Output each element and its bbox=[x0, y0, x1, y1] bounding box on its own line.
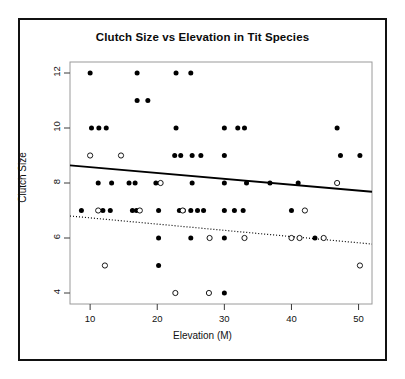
data-point-filled bbox=[242, 126, 247, 131]
data-point-filled bbox=[108, 208, 113, 213]
dotted-regression-line bbox=[70, 216, 372, 244]
data-point-open bbox=[289, 235, 294, 240]
data-point-filled bbox=[222, 153, 227, 158]
trendline-layer bbox=[70, 165, 372, 244]
y-tick-label: 4 bbox=[51, 282, 62, 302]
data-point-open bbox=[173, 290, 178, 295]
data-point-filled bbox=[222, 181, 227, 186]
data-point-filled bbox=[222, 291, 227, 296]
data-point-filled bbox=[195, 208, 200, 213]
x-tick-label: 50 bbox=[347, 313, 371, 324]
data-point-filled bbox=[357, 153, 362, 158]
data-point-filled bbox=[96, 126, 101, 131]
data-point-open bbox=[137, 208, 142, 213]
data-point-filled bbox=[222, 208, 227, 213]
data-point-open bbox=[180, 208, 185, 213]
data-point-filled bbox=[89, 126, 94, 131]
data-point-filled bbox=[235, 126, 240, 131]
data-point-filled bbox=[188, 236, 193, 241]
plot-area-box bbox=[70, 62, 372, 304]
data-point-filled bbox=[338, 153, 343, 158]
data-point-open bbox=[102, 263, 107, 268]
data-point-filled bbox=[201, 208, 206, 213]
data-point-filled bbox=[174, 71, 179, 76]
x-tick-label: 40 bbox=[279, 313, 303, 324]
data-point-filled bbox=[289, 208, 294, 213]
data-point-filled bbox=[178, 153, 183, 158]
data-point-filled bbox=[222, 236, 227, 241]
data-point-filled bbox=[312, 236, 317, 241]
data-point-open bbox=[297, 235, 302, 240]
data-point-open bbox=[206, 290, 211, 295]
y-tick-label: 12 bbox=[51, 62, 62, 82]
x-tick-label: 30 bbox=[212, 313, 236, 324]
data-point-filled bbox=[198, 153, 203, 158]
data-point-filled bbox=[190, 181, 195, 186]
data-point-filled bbox=[127, 181, 132, 186]
axis-layer bbox=[64, 62, 372, 310]
data-point-filled bbox=[172, 153, 177, 158]
data-point-filled bbox=[104, 126, 109, 131]
data-point-open bbox=[242, 235, 247, 240]
data-point-filled bbox=[135, 98, 140, 103]
data-point-filled bbox=[156, 236, 161, 241]
data-point-filled bbox=[145, 98, 150, 103]
data-point-filled bbox=[188, 71, 193, 76]
data-point-filled bbox=[135, 71, 140, 76]
data-point-filled bbox=[174, 126, 179, 131]
solid-regression-line bbox=[70, 165, 372, 191]
data-point-filled bbox=[222, 126, 227, 131]
y-tick-label: 8 bbox=[51, 172, 62, 192]
data-point-open bbox=[96, 208, 101, 213]
data-point-filled bbox=[133, 181, 138, 186]
data-points-layer bbox=[79, 71, 363, 296]
data-point-filled bbox=[156, 208, 161, 213]
data-point-filled bbox=[296, 181, 301, 186]
data-point-filled bbox=[109, 181, 114, 186]
data-point-filled bbox=[241, 208, 246, 213]
data-point-filled bbox=[232, 208, 237, 213]
data-point-open bbox=[321, 235, 326, 240]
data-point-filled bbox=[79, 208, 84, 213]
x-tick-label: 20 bbox=[145, 313, 169, 324]
data-point-open bbox=[302, 208, 307, 213]
data-point-filled bbox=[188, 208, 193, 213]
x-tick-label: 10 bbox=[78, 313, 102, 324]
y-tick-label: 6 bbox=[51, 227, 62, 247]
data-point-open bbox=[207, 235, 212, 240]
data-point-open bbox=[335, 180, 340, 185]
data-point-filled bbox=[88, 71, 93, 76]
data-point-filled bbox=[190, 153, 195, 158]
data-point-filled bbox=[335, 126, 340, 131]
data-point-filled bbox=[267, 181, 272, 186]
data-point-open bbox=[118, 153, 123, 158]
data-point-open bbox=[158, 180, 163, 185]
y-tick-label: 10 bbox=[51, 117, 62, 137]
data-point-filled bbox=[244, 181, 249, 186]
data-point-filled bbox=[96, 181, 101, 186]
data-point-open bbox=[88, 153, 93, 158]
data-point-open bbox=[357, 263, 362, 268]
data-point-filled bbox=[156, 263, 161, 268]
